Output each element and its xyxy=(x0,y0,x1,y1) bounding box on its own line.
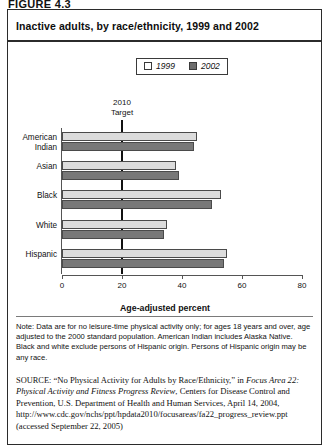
x-axis-tick-label: 80 xyxy=(298,281,307,290)
bar-group: Black xyxy=(62,186,302,215)
x-axis-tick xyxy=(302,275,303,279)
bar-2002 xyxy=(62,142,194,151)
source-label: SOURCE: xyxy=(16,376,51,385)
category-label: Asian xyxy=(1,162,57,172)
category-label: Black xyxy=(1,191,57,201)
bar-2002 xyxy=(62,200,212,209)
x-axis-tick xyxy=(242,275,243,279)
category-label: American Indian xyxy=(1,133,57,152)
x-axis-tick-label: 40 xyxy=(178,281,187,290)
category-label: White xyxy=(1,221,57,231)
x-axis-tick xyxy=(122,275,123,279)
x-axis-tick-label: 20 xyxy=(118,281,127,290)
bar-group: American Indian xyxy=(62,128,302,157)
x-axis-tick xyxy=(62,275,63,279)
bars-container: American IndianAsianBlackWhiteHispanic xyxy=(62,128,302,274)
bar-group: Hispanic xyxy=(62,245,302,274)
bar-2002 xyxy=(62,171,179,180)
category-label: Hispanic xyxy=(1,250,57,260)
bar-1999 xyxy=(62,161,176,170)
bar-2002 xyxy=(62,230,164,239)
bar-1999 xyxy=(62,190,221,199)
bar-group: White xyxy=(62,216,302,245)
chart-note: Note: Data are for no leisure-time physi… xyxy=(16,322,313,363)
x-axis-tick-label: 60 xyxy=(238,281,247,290)
source-text-part1: “No Physical Activity for Adults by Race… xyxy=(54,375,247,385)
bar-group: Asian xyxy=(62,157,302,186)
x-axis-tick xyxy=(182,275,183,279)
note-divider xyxy=(16,316,313,317)
chart-source: SOURCE: “No Physical Activity for Adults… xyxy=(16,375,313,432)
bar-1999 xyxy=(62,220,167,229)
x-axis-tick-label: 0 xyxy=(60,281,64,290)
bar-1999 xyxy=(62,132,197,141)
x-axis-title: Age-adjusted percent xyxy=(0,303,330,313)
chart-plot: American IndianAsianBlackWhiteHispanic 0… xyxy=(0,0,330,300)
bar-1999 xyxy=(62,249,227,258)
bar-2002 xyxy=(62,259,224,268)
